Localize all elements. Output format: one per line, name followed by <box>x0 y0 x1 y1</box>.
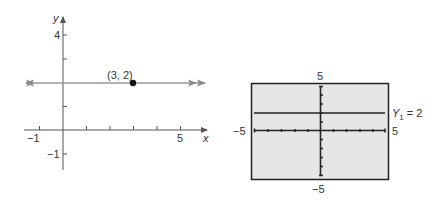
x-tick-label-5: 5 <box>177 132 183 144</box>
y-axis-label: y <box>52 12 60 24</box>
calculator-screen: 5 −5 −5 5 Y1 = 2 <box>233 70 422 195</box>
y-tick-label-4: 4 <box>54 29 60 41</box>
x-axis-label: x <box>202 132 209 144</box>
y-ticks <box>63 35 67 154</box>
xmin-label: −5 <box>233 125 246 137</box>
y-tick-label-neg1: −1 <box>47 148 60 160</box>
function-label: Y1 = 2 <box>392 107 422 122</box>
left-graph: y x 4 −1 −1 5 (3, 2) <box>24 12 209 170</box>
x-tick-label-neg1: −1 <box>27 132 40 144</box>
xmax-label: 5 <box>392 125 398 137</box>
point-label: (3, 2) <box>107 69 133 81</box>
x-ticks <box>40 126 181 130</box>
figure: y x 4 −1 −1 5 (3, 2) <box>0 0 442 203</box>
ymin-label: −5 <box>312 183 325 195</box>
ymax-label: 5 <box>317 70 323 82</box>
